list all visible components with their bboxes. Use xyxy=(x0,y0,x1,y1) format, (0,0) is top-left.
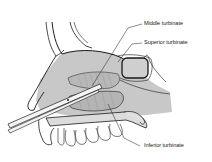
label-superior-turbinate: Superior turbinate xyxy=(144,40,188,46)
label-middle-turbinate: Middle turbinate xyxy=(144,21,183,27)
label-inferior-turbinate: Inferior turbinate xyxy=(144,143,184,149)
upper-teeth xyxy=(58,124,122,146)
crista-outline xyxy=(70,22,92,48)
crista-outline-inner xyxy=(74,22,88,43)
sphenoid-sinus xyxy=(122,58,148,78)
